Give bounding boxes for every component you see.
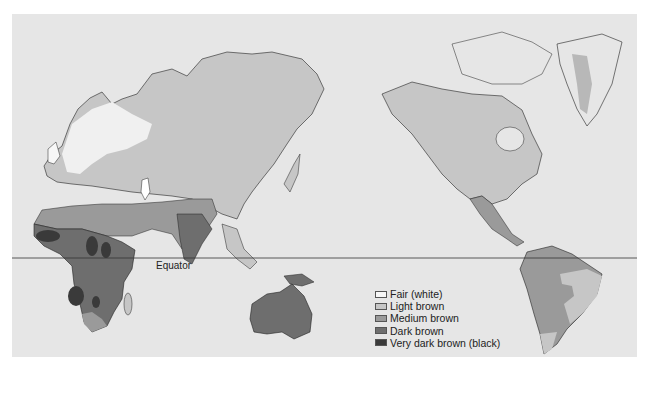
- legend-item-fair: Fair (white): [375, 288, 500, 300]
- south-africa-very-dark-1: [68, 286, 84, 306]
- equator-label: Equator: [156, 260, 191, 271]
- australia-region: [250, 284, 312, 339]
- japan: [284, 154, 300, 192]
- legend-swatch: [375, 339, 387, 346]
- central-africa-very-dark-1: [86, 236, 98, 256]
- legend-item-medium-brown: Medium brown: [375, 312, 500, 324]
- arctic-islands: [452, 32, 552, 84]
- legend-label: Light brown: [390, 300, 444, 312]
- southeast-asia-region: [222, 224, 257, 269]
- new-guinea: [284, 274, 314, 286]
- central-africa-very-dark-2: [101, 242, 111, 258]
- caspian-sea: [141, 178, 150, 200]
- map-graphic: [12, 14, 637, 357]
- legend-label: Dark brown: [390, 325, 444, 337]
- hudson-bay: [496, 127, 524, 151]
- legend-label: Very dark brown (black): [390, 337, 500, 349]
- legend-item-very-dark-brown: Very dark brown (black): [375, 337, 500, 349]
- madagascar: [124, 293, 132, 315]
- map-legend: Fair (white) Light brown Medium brown Da…: [375, 288, 500, 349]
- legend-swatch: [375, 327, 387, 334]
- legend-label: Fair (white): [390, 288, 443, 300]
- west-africa-very-dark: [36, 230, 60, 242]
- south-africa-very-dark-2: [92, 296, 100, 308]
- legend-label: Medium brown: [390, 312, 459, 324]
- legend-swatch: [375, 291, 387, 298]
- legend-swatch: [375, 303, 387, 310]
- legend-item-light-brown: Light brown: [375, 300, 500, 312]
- skin-color-world-map: Equator Fair (white) Light brown Medium …: [12, 14, 637, 357]
- legend-item-dark-brown: Dark brown: [375, 325, 500, 337]
- india-region: [177, 214, 212, 264]
- legend-swatch: [375, 315, 387, 322]
- central-america-region: [470, 196, 524, 246]
